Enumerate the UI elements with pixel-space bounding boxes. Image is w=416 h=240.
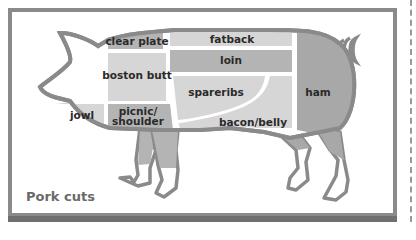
legs [120, 128, 348, 200]
label-fatback: fatback [210, 33, 255, 45]
label-bacon-belly: bacon/belly [219, 116, 287, 128]
label-boston-butt: boston butt [102, 69, 171, 81]
label-spareribs: spareribs [188, 86, 244, 98]
label-jowl: jowl [69, 109, 94, 121]
label-ham: ham [305, 86, 331, 98]
diagram-caption: Pork cuts [26, 189, 95, 204]
label-clear-plate: clear plate [105, 35, 168, 47]
label-picnic-line2: shoulder [112, 115, 165, 127]
label-loin: loin [220, 54, 242, 66]
